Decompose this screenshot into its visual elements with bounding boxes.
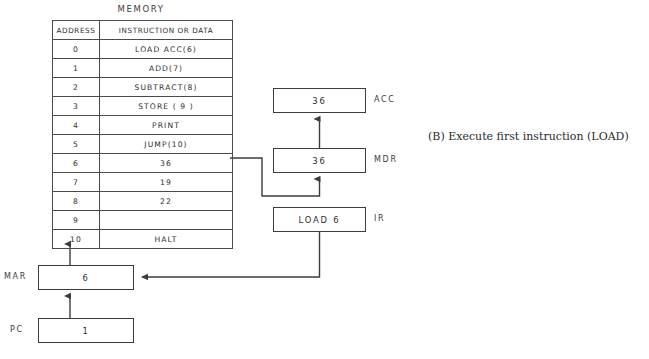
register-mdr-box: 36 [273,148,366,173]
table-row: 4 PRINT [53,116,233,135]
figure-caption: (B) Execute first instruction (LOAD) [428,130,629,143]
register-ir-box: LOAD 6 [273,207,366,232]
register-mdr-label: MDR [374,155,398,164]
memory-table: ADDRESS INSTRUCTION OR DATA 0 LOAD ACC(6… [52,20,233,249]
table-row: 0 LOAD ACC(6) [53,40,233,59]
register-acc-box: 36 [273,88,366,113]
register-mar-label: MAR [4,272,27,281]
cell-address: 8 [53,192,100,211]
cell-address: 3 [53,97,100,116]
column-header-address: ADDRESS [53,21,100,40]
register-acc-label: ACC [374,95,396,104]
register-pc-label: PC [10,325,24,334]
cell-address: 1 [53,59,100,78]
table-row: 9 [53,211,233,230]
table-row: 8 22 [53,192,233,211]
cell-address: 10 [53,230,100,249]
cell-content: 36 [100,154,233,173]
cell-address: 2 [53,78,100,97]
table-row: 1 ADD(7) [53,59,233,78]
cell-content: HALT [100,230,233,249]
table-row: 10 HALT [53,230,233,249]
cell-content: PRINT [100,116,233,135]
table-row: 2 SUBTRACT(8) [53,78,233,97]
cell-address: 4 [53,116,100,135]
cell-content [100,211,233,230]
table-header-row: ADDRESS INSTRUCTION OR DATA [53,21,233,40]
cell-address: 0 [53,40,100,59]
cell-address: 5 [53,135,100,154]
figure-canvas: MEMORY ADDRESS INSTRUCTION OR DATA 0 LOA… [0,0,649,359]
cell-content: 22 [100,192,233,211]
table-row: 3 STORE ( 9 ) [53,97,233,116]
register-mar-box: 6 [38,265,134,290]
cell-content: LOAD ACC(6) [100,40,233,59]
cell-content: STORE ( 9 ) [100,97,233,116]
cell-content: 19 [100,173,233,192]
cell-content: ADD(7) [100,59,233,78]
cell-address: 6 [53,154,100,173]
cell-content: JUMP(10) [100,135,233,154]
register-ir-label: IR [374,214,385,223]
cell-address: 7 [53,173,100,192]
table-row: 6 36 [53,154,233,173]
table-row: 7 19 [53,173,233,192]
cell-address: 9 [53,211,100,230]
memory-title: MEMORY [52,4,230,14]
table-row: 5 JUMP(10) [53,135,233,154]
column-header-instruction-or-data: INSTRUCTION OR DATA [100,21,233,40]
cell-content: SUBTRACT(8) [100,78,233,97]
register-pc-box: 1 [38,318,134,343]
